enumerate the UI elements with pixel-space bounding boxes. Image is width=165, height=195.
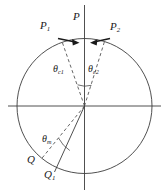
arc-theta-m: [59, 138, 70, 151]
label-q1: Q1: [44, 169, 55, 182]
arrow-p1-icon: [58, 39, 80, 46]
label-q1-sub: 1: [52, 174, 55, 181]
label-theta-m-sub: m: [47, 138, 51, 145]
dashed-ray-theta-c1: [62, 42, 85, 107]
label-theta-c2: θc2: [88, 64, 99, 75]
label-p2: P2: [110, 21, 120, 34]
label-q: Q: [27, 154, 35, 167]
label-p2-sub: 2: [117, 26, 120, 33]
diagram-svg: [0, 0, 165, 195]
label-theta-c1-sub: c1: [58, 68, 64, 75]
figure-canvas: P1 P P2 θc1 θc2 θm Q Q1: [0, 0, 165, 195]
label-theta-c2-sub: c2: [93, 68, 99, 75]
label-p: P: [73, 11, 80, 24]
label-theta-m: θm: [42, 134, 51, 145]
label-q1-base: Q: [44, 168, 52, 180]
label-theta-c1: θc1: [53, 64, 64, 75]
label-p2-base: P: [110, 20, 117, 32]
dashed-ray-q: [41, 106, 85, 160]
label-p1-sub: 1: [47, 25, 50, 32]
label-p1-base: P: [40, 19, 47, 31]
label-q-base: Q: [27, 153, 35, 165]
label-p1: P1: [40, 20, 50, 33]
label-p-base: P: [73, 10, 80, 22]
